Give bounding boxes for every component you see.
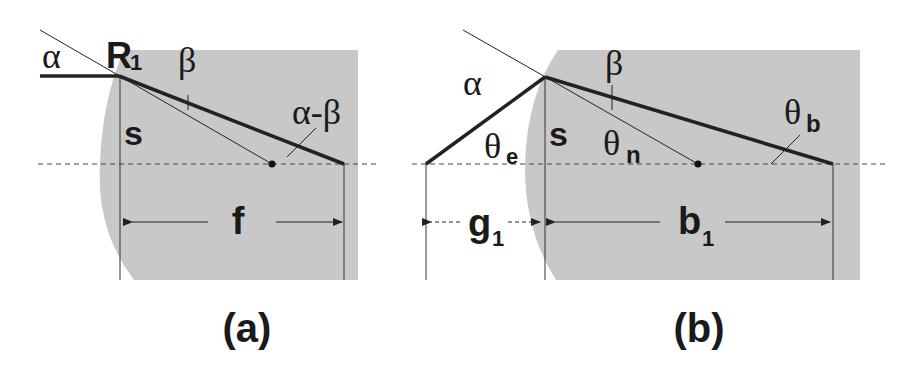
focal-length-label: f: [232, 200, 245, 242]
theta-b-label: θ: [784, 92, 801, 132]
theta-n-subscript: n: [626, 141, 641, 168]
caption-a: (a): [223, 306, 272, 350]
g-label: g: [468, 202, 491, 244]
alpha-label-a: α: [42, 36, 61, 76]
s-label-b: s: [549, 115, 568, 153]
s-label-a: s: [124, 114, 143, 152]
b-subscript: 1: [702, 226, 714, 251]
beta-label-b: β: [605, 43, 623, 83]
alpha-label-b: α: [463, 63, 482, 103]
panel-b: α β θ e s θ n θ b g 1 b 1 (b): [412, 30, 887, 350]
theta-e-label: θ: [484, 126, 501, 166]
theta-e-subscript: e: [506, 144, 518, 169]
theta-b-subscript: b: [806, 110, 821, 137]
center-point-a: [269, 161, 276, 168]
radius-subscript-a: 1: [130, 50, 142, 75]
radius-label-a: R: [106, 35, 132, 76]
caption-b: (b): [673, 306, 724, 350]
theta-n-label: θ: [603, 123, 620, 163]
center-point-b: [695, 161, 702, 168]
g-subscript: 1: [492, 226, 504, 251]
panel-a: α R 1 β α-β s f (a): [38, 30, 380, 350]
alpha-minus-beta-label: α-β: [292, 92, 341, 132]
refraction-diagram: α R 1 β α-β s f (a) α β θ e s θ n θ: [0, 0, 913, 374]
beta-label-a: β: [178, 40, 196, 80]
b-label: b: [678, 200, 701, 242]
